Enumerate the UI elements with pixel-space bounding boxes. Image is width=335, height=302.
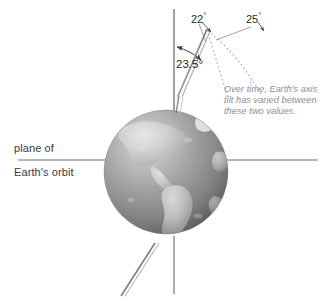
leader-arrow-25: [216, 22, 264, 40]
tilt-angle-value-25: 25: [246, 13, 258, 25]
earth-rotation-axis-lower: [121, 243, 159, 296]
earth-globe: [104, 110, 229, 248]
earth-axial-tilt-diagram: plane of Earth's orbit 23.5° 22° 25° Ove…: [0, 0, 335, 302]
tilt-angle-value-23-5: 23.5: [176, 58, 198, 70]
caption-line-3: these two values.: [224, 106, 296, 117]
degree-symbol-25: °: [258, 11, 261, 20]
earth-landmasses: [104, 110, 229, 248]
degree-symbol-23-5: °: [198, 58, 203, 70]
tilt-angle-label-25: 25°: [246, 11, 261, 25]
degree-symbol-22: °: [203, 11, 206, 20]
caption-line-2: tilt has varied between: [224, 95, 317, 106]
orbit-plane-label-line2: Earth's orbit: [14, 166, 74, 178]
orbit-plane-label-line1: plane of: [14, 142, 54, 154]
tilt-angle-label-22: 22°: [191, 11, 206, 25]
tilt-angle-label-23-5: 23.5°: [176, 58, 203, 70]
tilt-angle-value-22: 22: [191, 13, 203, 25]
caption-line-1: Over time, Earth's axis: [224, 84, 317, 95]
